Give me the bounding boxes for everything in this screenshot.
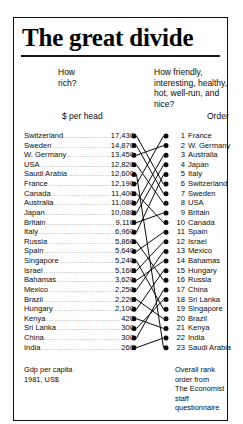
country-label: Australia [188, 150, 218, 159]
country-label: Russia [24, 237, 47, 247]
right-node-dot [164, 268, 169, 273]
right-node-dot [164, 326, 169, 331]
right-node-dot [164, 287, 169, 292]
table-row: 8USA [174, 198, 204, 208]
right-node-dot [164, 336, 169, 341]
rank-number: 15 [174, 266, 185, 276]
dot-leader: ........................................ [47, 314, 121, 324]
country-label: Brazil [24, 295, 43, 305]
right-node-dot [164, 162, 169, 167]
table-row: 7Sweden [174, 189, 215, 199]
country-label: Saudi Arabia [24, 169, 67, 179]
value-label: 5,860 [115, 237, 134, 247]
footnotes: Gdp per capita1981, US$ Overall rankorde… [14, 353, 227, 397]
rank-number: 4 [174, 160, 185, 170]
rank-number: 6 [174, 179, 185, 189]
country-label: Sri Lanka [24, 323, 56, 333]
right-node-dot [164, 239, 169, 244]
value-label: 12,190 [111, 179, 134, 189]
right-node-dot [164, 297, 169, 302]
dot-leader: ........................................ [52, 189, 111, 199]
slope-plot: Switzerland.............................… [14, 125, 227, 353]
right-node-dot [164, 345, 169, 350]
table-row: Australia...............................… [24, 198, 134, 208]
left-footnote: Gdp per capita1981, US$ [24, 365, 72, 384]
value-label: 2,100 [115, 304, 134, 314]
country-label: Israel [188, 237, 207, 246]
rank-number: 9 [174, 208, 185, 218]
rank-number: 2 [174, 141, 185, 151]
right-node-dot [164, 191, 169, 196]
country-label: Sweden [24, 141, 51, 151]
table-row: Sri Lanka...............................… [24, 323, 134, 333]
right-column-header: Order [207, 111, 229, 121]
country-label: USA [188, 198, 204, 207]
table-row: Saudi Arabia............................… [24, 169, 134, 179]
table-row: 10Canada [174, 218, 215, 228]
country-label: Italy [188, 169, 202, 178]
rank-number: 17 [174, 285, 185, 295]
country-label: Kenya [188, 323, 210, 332]
rank-number: 7 [174, 189, 185, 199]
table-row: Canada..................................… [24, 189, 134, 199]
dot-leader: ........................................ [54, 304, 114, 314]
dot-leader: ........................................ [39, 227, 114, 237]
country-label: Hungary [24, 304, 53, 314]
rank-number: 1 [174, 131, 185, 141]
connector-line [137, 146, 164, 194]
value-label: 11,400 [111, 189, 134, 199]
table-row: 11Spain [174, 227, 207, 237]
country-label: Hungary [188, 266, 217, 275]
rank-number: 21 [174, 323, 185, 333]
table-row: 1France [174, 131, 212, 141]
rank-number: 10 [174, 218, 185, 228]
value-label: 420 [121, 314, 134, 324]
value-label: 2,220 [115, 295, 134, 305]
rank-number: 12 [174, 237, 185, 247]
table-row: 20Brazil [174, 314, 207, 324]
dot-leader: ........................................ [44, 295, 114, 305]
rank-number: 8 [174, 198, 185, 208]
table-row: India...................................… [24, 343, 134, 353]
dot-leader: ........................................ [68, 169, 110, 179]
table-row: Singapore...............................… [24, 256, 134, 266]
country-label: Britain [188, 208, 210, 217]
country-label: Italy [24, 227, 38, 237]
rank-number: 22 [174, 333, 185, 343]
value-label: 5,240 [115, 256, 134, 266]
country-label: China [24, 333, 44, 343]
dot-leader: ........................................ [67, 150, 110, 160]
table-row: Hungary.................................… [24, 304, 134, 314]
table-row: 21Kenya [174, 323, 210, 333]
country-label: India [24, 343, 40, 353]
table-row: Brazil..................................… [24, 295, 134, 305]
rank-number: 5 [174, 169, 185, 179]
rank-number: 16 [174, 275, 185, 285]
chart-frame: The great divide Howrich? How friendly,i… [13, 17, 228, 421]
country-label: Bahamas [188, 256, 220, 265]
table-row: Italy...................................… [24, 227, 134, 237]
value-label: 3,620 [115, 275, 134, 285]
right-node-dot [164, 307, 169, 312]
dot-leader: ........................................ [52, 141, 109, 151]
connector-line [137, 146, 164, 156]
country-label: Switzerland [188, 179, 227, 188]
table-row: Bahamas.................................… [24, 275, 134, 285]
country-label: India [188, 333, 204, 342]
table-row: 12Israel [174, 237, 207, 247]
table-row: Britain.................................… [24, 218, 134, 228]
dot-leader: ........................................ [48, 237, 114, 247]
table-row: 6Switzerland [174, 179, 227, 189]
table-row: 3Australia [174, 150, 218, 160]
table-row: 2W. Germany [174, 141, 230, 151]
country-label: W. Germany [24, 150, 66, 160]
table-row: Switzerland.............................… [24, 131, 134, 141]
value-label: 5,640 [115, 246, 134, 256]
right-node-dot [164, 249, 169, 254]
right-node-dot [164, 153, 169, 158]
table-row: 9Britain [174, 208, 210, 218]
value-label: 9,110 [116, 218, 134, 228]
country-label: Japan [188, 160, 209, 169]
right-node-dot [164, 201, 169, 206]
table-row: 16Russia [174, 275, 211, 285]
